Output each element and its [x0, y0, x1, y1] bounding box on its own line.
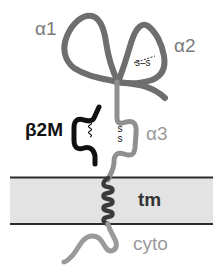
alpha3-disulfide-bond: s s: [118, 123, 123, 144]
alpha2-label: α2: [174, 36, 196, 55]
beta2m-chain: [74, 107, 99, 164]
alpha3-label: α3: [146, 124, 168, 143]
transmembrane-label: tm: [138, 190, 161, 209]
disulfide-label-alpha2: s–s: [135, 57, 151, 68]
cytoplasmic-label: cyto: [133, 234, 168, 253]
disulfide-label-alpha3-bottom: s: [118, 133, 123, 144]
alpha1-label: α1: [35, 19, 57, 38]
beta2m-disulfide-bond: [89, 122, 92, 137]
cytoplasmic-tail: [64, 224, 116, 262]
beta2m-label: β2M: [25, 120, 63, 139]
alpha2-disulfide-bond: s–s: [134, 56, 155, 68]
alpha2-domain-loop: [116, 25, 165, 84]
